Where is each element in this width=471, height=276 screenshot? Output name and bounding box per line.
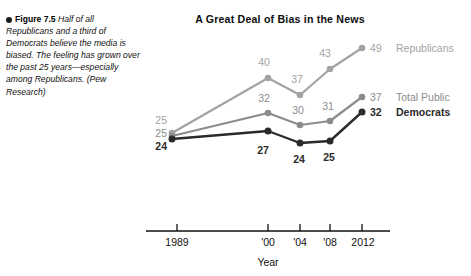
point-label-democrats-1989: 24 xyxy=(155,140,167,152)
legend-value-republicans: 49 xyxy=(370,42,387,54)
point-label-total-public-2004: 30 xyxy=(292,104,304,116)
x-axis xyxy=(146,224,390,231)
point-label-republicans-2000: 40 xyxy=(258,56,270,68)
x-tick-label-2012: 2012 xyxy=(351,236,374,248)
x-tick-label-1989: 1989 xyxy=(165,236,188,248)
legend-label-democrats: Democrats xyxy=(396,106,450,118)
point-label-democrats-2004: 24 xyxy=(293,153,305,165)
point-label-democrats-2008: 25 xyxy=(323,151,335,163)
x-tick-label-2000: '00 xyxy=(261,236,275,248)
legend-label-total-public: Total Public xyxy=(396,91,450,103)
chart-container: A Great Deal of Bias in the News xyxy=(0,0,471,276)
point-label-republicans-1989: 25 xyxy=(155,114,167,126)
point-label-total-public-1989: 25 xyxy=(155,127,167,139)
legend-value-total-public: 37 xyxy=(370,91,387,103)
point-label-democrats-2000: 27 xyxy=(257,144,269,156)
legend-item-democrats: 32Democrats xyxy=(370,106,450,118)
legend-value-democrats: 32 xyxy=(370,106,387,118)
legend-item-republicans: 49Republicans xyxy=(370,42,454,54)
point-label-total-public-2008: 31 xyxy=(322,100,334,112)
x-tick-label-2008: '08 xyxy=(323,236,337,248)
point-label-republicans-2008: 43 xyxy=(319,47,331,59)
x-axis-title: Year xyxy=(257,256,278,268)
legend-item-total-public: 37Total Public xyxy=(370,91,450,103)
x-tick-label-2004: '04 xyxy=(293,236,307,248)
point-label-republicans-2004: 37 xyxy=(291,73,303,85)
point-label-total-public-2000: 32 xyxy=(258,92,270,104)
legend-label-republicans: Republicans xyxy=(396,42,454,54)
